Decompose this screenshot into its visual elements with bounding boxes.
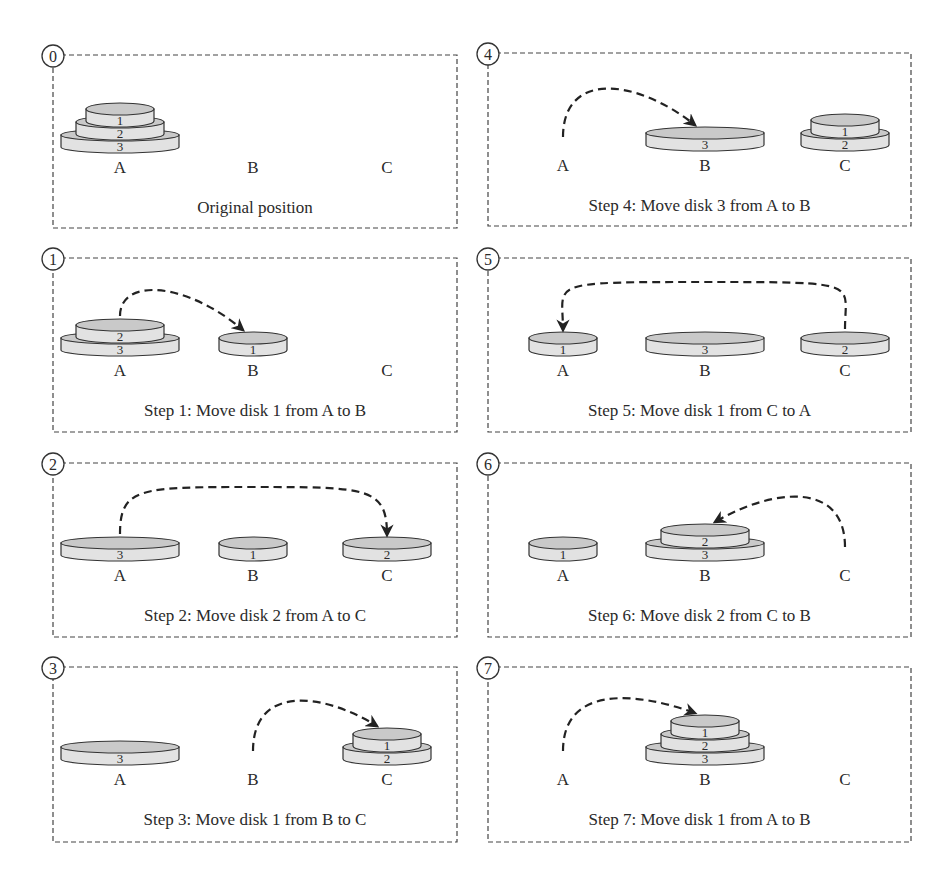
step-number: 2 [49, 456, 57, 473]
peg-label-c: C [381, 361, 392, 380]
disk-number: 1 [702, 725, 709, 740]
peg-label-a: A [114, 158, 127, 177]
peg-label-c: C [381, 770, 392, 789]
peg-label-b: B [247, 770, 258, 789]
peg-label-b: B [247, 361, 258, 380]
disk-number: 2 [384, 751, 391, 766]
disk-number: 2 [702, 534, 709, 549]
disk-number: 2 [842, 137, 849, 152]
step-caption: Step 3: Move disk 1 from B to C [144, 810, 367, 829]
disk-number: 2 [384, 547, 391, 562]
step-panel-4: 4ABC321Step 4: Move disk 3 from A to B [477, 43, 911, 226]
step-number: 1 [49, 251, 57, 268]
disk-number: 3 [702, 137, 709, 152]
step-number: 6 [484, 456, 492, 473]
disk-2: 2 [76, 319, 164, 344]
disk-number: 1 [250, 547, 257, 562]
step-panel-7: 7ABC321Step 7: Move disk 1 from A to B [477, 657, 911, 842]
disk-number: 1 [250, 342, 257, 357]
disk-2: 2 [343, 537, 431, 562]
disk-number: 2 [117, 126, 124, 141]
disk-1: 1 [353, 728, 421, 753]
peg-label-b: B [699, 361, 710, 380]
disk-1: 1 [219, 332, 287, 357]
peg-label-a: A [114, 770, 127, 789]
disk-number: 2 [117, 329, 124, 344]
step-panel-6: 6ABC132Step 6: Move disk 2 from C to B [477, 453, 911, 637]
step-caption: Step 7: Move disk 1 from A to B [589, 810, 811, 829]
disk-1: 1 [529, 332, 597, 357]
peg-label-b: B [247, 566, 258, 585]
disk-number: 3 [117, 751, 124, 766]
disk-number: 3 [117, 547, 124, 562]
step-panel-5: 5ABC132Step 5: Move disk 1 from C to A [477, 248, 911, 432]
disk-3: 3 [61, 741, 179, 766]
peg-label-a: A [114, 361, 127, 380]
disk-number: 2 [702, 738, 709, 753]
disk-2: 2 [661, 524, 749, 549]
step-panel-3: 3ABC321Step 3: Move disk 1 from B to C [42, 657, 457, 842]
step-caption: Step 6: Move disk 2 from C to B [588, 606, 811, 625]
disk-number: 3 [702, 342, 709, 357]
step-panel-0: 0ABC321Original position [42, 45, 457, 228]
step-caption: Original position [197, 198, 313, 217]
peg-label-b: B [247, 158, 258, 177]
peg-label-c: C [839, 566, 850, 585]
disk-number: 1 [842, 124, 849, 139]
step-number: 7 [484, 660, 492, 677]
peg-label-b: B [699, 770, 710, 789]
step-caption: Step 2: Move disk 2 from A to C [144, 606, 366, 625]
step-caption: Step 1: Move disk 1 from A to B [144, 401, 366, 420]
peg-label-c: C [381, 566, 392, 585]
peg-label-a: A [557, 566, 570, 585]
peg-label-a: A [557, 156, 570, 175]
disk-number: 3 [117, 139, 124, 154]
peg-label-a: A [557, 361, 570, 380]
disk-number: 1 [384, 738, 391, 753]
disk-3: 3 [61, 537, 179, 562]
peg-label-c: C [839, 156, 850, 175]
move-arrow [120, 487, 387, 535]
disk-number: 1 [560, 547, 567, 562]
move-arrow [562, 282, 846, 330]
step-caption: Step 4: Move disk 3 from A to B [589, 196, 811, 215]
disk-number: 3 [702, 547, 709, 562]
disk-1: 1 [86, 103, 154, 128]
step-number: 5 [484, 251, 492, 268]
peg-label-b: B [699, 156, 710, 175]
disk-3: 3 [646, 127, 764, 152]
step-panel-1: 1ABC321Step 1: Move disk 1 from A to B [42, 248, 457, 432]
hanoi-diagram: 0ABC321Original position1ABC321Step 1: M… [0, 0, 948, 870]
disk-1: 1 [671, 715, 739, 740]
disk-3: 3 [646, 332, 764, 357]
peg-label-b: B [699, 566, 710, 585]
disk-1: 1 [811, 114, 879, 139]
disk-number: 2 [842, 342, 849, 357]
disk-1: 1 [529, 537, 597, 562]
step-number: 0 [49, 48, 57, 65]
disk-2: 2 [801, 332, 889, 357]
step-panel-2: 2ABC312Step 2: Move disk 2 from A to C [42, 453, 457, 637]
step-number: 3 [49, 660, 57, 677]
disk-number: 3 [117, 342, 124, 357]
disk-number: 1 [117, 113, 124, 128]
disk-number: 1 [560, 342, 567, 357]
peg-label-c: C [839, 361, 850, 380]
disk-1: 1 [219, 537, 287, 562]
step-caption: Step 5: Move disk 1 from C to A [588, 401, 812, 420]
peg-label-c: C [839, 770, 850, 789]
peg-label-c: C [381, 158, 392, 177]
step-number: 4 [484, 46, 492, 63]
peg-label-a: A [114, 566, 127, 585]
disk-number: 3 [702, 751, 709, 766]
peg-label-a: A [557, 770, 570, 789]
